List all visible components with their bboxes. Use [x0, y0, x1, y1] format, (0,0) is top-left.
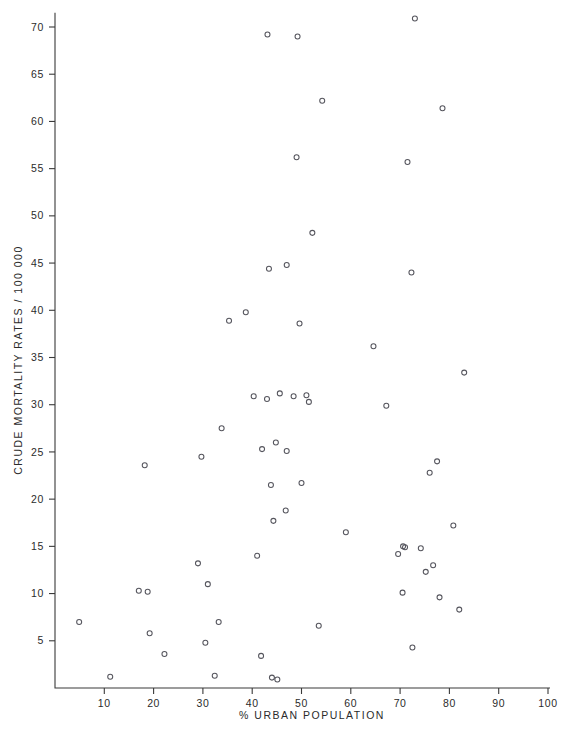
axis-lines	[55, 13, 550, 688]
data-point	[142, 463, 147, 468]
y-tick-label: 40	[31, 304, 44, 316]
data-point	[410, 645, 415, 650]
y-tick-label: 15	[31, 540, 44, 552]
y-tick-label: 65	[31, 68, 44, 80]
data-point	[297, 321, 302, 326]
y-tick-label: 45	[31, 257, 44, 269]
data-point	[310, 230, 315, 235]
data-point	[108, 674, 113, 679]
data-point	[462, 370, 467, 375]
x-axis-ticks	[104, 688, 548, 694]
y-tick-label: 20	[31, 493, 44, 505]
data-point	[205, 582, 210, 587]
data-point	[273, 440, 278, 445]
y-tick-label: 10	[31, 587, 44, 599]
y-tick-label: 70	[31, 21, 44, 33]
data-point	[264, 397, 269, 402]
data-point	[396, 551, 401, 556]
data-point	[306, 399, 311, 404]
data-point	[320, 98, 325, 103]
x-tick-label: 40	[246, 697, 259, 709]
data-point	[294, 155, 299, 160]
axes-group	[55, 13, 550, 688]
data-point	[195, 561, 200, 566]
data-point	[259, 653, 264, 658]
data-point	[251, 394, 256, 399]
data-point	[412, 16, 417, 21]
data-point	[147, 631, 152, 636]
x-tick-label: 50	[295, 697, 308, 709]
data-point	[384, 403, 389, 408]
y-axis-tick-labels: 510152025303540455055606570	[31, 21, 44, 647]
x-tick-label: 60	[344, 697, 357, 709]
y-tick-label: 50	[31, 209, 44, 221]
data-point	[440, 106, 445, 111]
data-point	[199, 454, 204, 459]
data-point	[343, 530, 348, 535]
data-point	[227, 318, 232, 323]
x-tick-label: 90	[492, 697, 505, 709]
x-axis-tick-labels: 102030405060708090100	[98, 697, 558, 709]
x-tick-label: 100	[538, 697, 557, 709]
data-point	[266, 266, 271, 271]
data-point	[265, 32, 270, 37]
x-tick-label: 20	[147, 697, 160, 709]
data-point	[299, 481, 304, 486]
y-tick-label: 30	[31, 398, 44, 410]
data-point	[451, 523, 456, 528]
data-point	[371, 344, 376, 349]
data-point	[316, 623, 321, 628]
data-point	[216, 619, 221, 624]
y-tick-label: 60	[31, 115, 44, 127]
data-point	[457, 607, 462, 612]
data-point	[275, 677, 280, 682]
x-tick-label: 30	[196, 697, 209, 709]
data-point	[283, 508, 288, 513]
data-point	[219, 426, 224, 431]
data-point	[277, 391, 282, 396]
data-point	[162, 652, 167, 657]
data-point	[437, 595, 442, 600]
data-point	[203, 640, 208, 645]
data-point	[291, 394, 296, 399]
data-point	[77, 619, 82, 624]
y-tick-label: 55	[31, 162, 44, 174]
data-point	[145, 589, 150, 594]
data-point	[260, 447, 265, 452]
scatter-chart-figure: 510152025303540455055606570 102030405060…	[0, 0, 570, 733]
data-point	[427, 470, 432, 475]
data-point	[271, 518, 276, 523]
data-point	[304, 393, 309, 398]
data-point	[295, 34, 300, 39]
data-point	[136, 588, 141, 593]
y-tick-label: 25	[31, 446, 44, 458]
y-axis-ticks	[49, 27, 55, 641]
y-tick-label: 35	[31, 351, 44, 363]
x-tick-label: 80	[443, 697, 456, 709]
data-point	[435, 459, 440, 464]
data-point	[418, 546, 423, 551]
data-point	[269, 675, 274, 680]
chart-canvas: 510152025303540455055606570 102030405060…	[0, 0, 570, 733]
x-tick-label: 70	[394, 697, 407, 709]
data-point	[243, 310, 248, 315]
data-point	[284, 448, 289, 453]
data-point-markers	[77, 16, 467, 682]
data-point	[212, 673, 217, 678]
data-point	[423, 569, 428, 574]
data-point	[268, 482, 273, 487]
x-tick-label: 10	[98, 697, 111, 709]
data-point	[405, 160, 410, 165]
data-point	[409, 270, 414, 275]
data-point	[255, 553, 260, 558]
data-point	[284, 262, 289, 267]
y-axis-title: CRUDE MORTALITY RATES / 100 000	[12, 245, 24, 475]
x-axis-title: % URBAN POPULATION	[239, 709, 385, 721]
y-tick-label: 5	[38, 634, 44, 646]
data-point	[400, 590, 405, 595]
data-point	[431, 563, 436, 568]
